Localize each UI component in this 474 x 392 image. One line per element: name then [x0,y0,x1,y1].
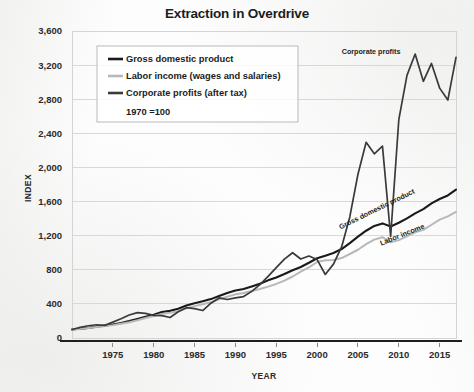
legend-item-label: Corporate profits (after tax) [126,88,247,98]
y-axis-tick: 1,200 [38,230,62,241]
y-axis-tick-labels: 04008001,2001,6002,0002,4002,8003,2003,6… [38,25,62,343]
chart-plot-area: 04008001,2001,6002,0002,4002,8003,2003,6… [0,0,474,392]
chart-legend: Gross domestic productLabor income (wage… [97,46,298,122]
chart-container: Extraction in Overdrive 04008001,2001,60… [0,0,474,392]
x-axis-tick: 2005 [347,349,369,360]
x-axis [60,341,462,347]
series-annotation: Corporate profits [342,47,401,56]
x-axis-tick: 1975 [102,349,124,360]
y-axis-tick: 3,200 [38,60,62,71]
legend-note: 1970 =100 [126,107,170,117]
x-axis-tick-labels: 197519801985199019952000200520102015 [102,349,451,360]
x-axis-tick: 1995 [266,349,288,360]
series-line [72,190,456,330]
x-axis-tick: 2015 [429,349,451,360]
y-axis-tick: 2,000 [38,162,62,173]
legend-item-label: Gross domestic product [126,54,233,64]
y-axis-tick: 400 [46,298,62,309]
y-axis-tick: 1,600 [38,196,62,207]
x-axis-tick: 2000 [307,349,328,360]
x-axis-tick: 1985 [184,349,206,360]
y-axis-tick: 2,800 [38,94,62,105]
x-axis-tick: 1990 [225,349,246,360]
legend-item-label: Labor income (wages and salaries) [126,71,280,81]
x-axis-label: YEAR [251,371,276,381]
y-axis-tick: 800 [46,264,62,275]
x-axis-tick: 2010 [388,349,409,360]
y-axis-tick: 3,600 [38,25,62,36]
y-axis-label: INDEX [23,174,33,202]
series-line [72,212,456,330]
x-axis-tick: 1980 [143,349,164,360]
y-axis-tick: 2,400 [38,128,62,139]
